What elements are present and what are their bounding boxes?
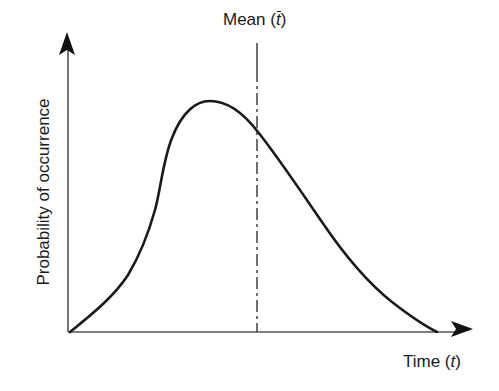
mean-label-text: Mean ( (223, 10, 276, 29)
distribution-curve (70, 101, 437, 332)
x-axis-label: Time (t) (403, 353, 461, 370)
x-axis-label-text: Time ( (403, 352, 451, 371)
mean-symbol: t (276, 11, 281, 28)
mean-label-suffix: ) (281, 10, 287, 29)
mean-label: Mean (t) (223, 11, 286, 28)
x-axis-label-suffix: ) (455, 352, 461, 371)
x-axis (68, 321, 473, 337)
distribution-diagram: Mean (t) Time (t) Probability of occurre… (0, 0, 499, 391)
y-axis (59, 32, 75, 332)
x-axis-arrow-icon (451, 321, 473, 337)
y-axis-arrow-icon (59, 32, 75, 55)
y-axis-label: Probability of occurrence (35, 98, 52, 285)
